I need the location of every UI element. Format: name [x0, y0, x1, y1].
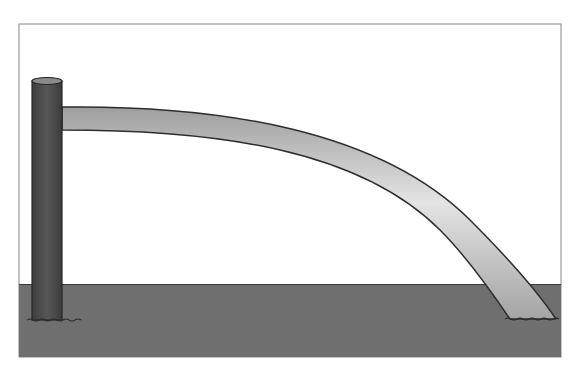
post	[32, 81, 62, 320]
post-top	[32, 78, 62, 85]
cantilever-diagram	[0, 0, 588, 371]
ground	[19, 284, 561, 357]
